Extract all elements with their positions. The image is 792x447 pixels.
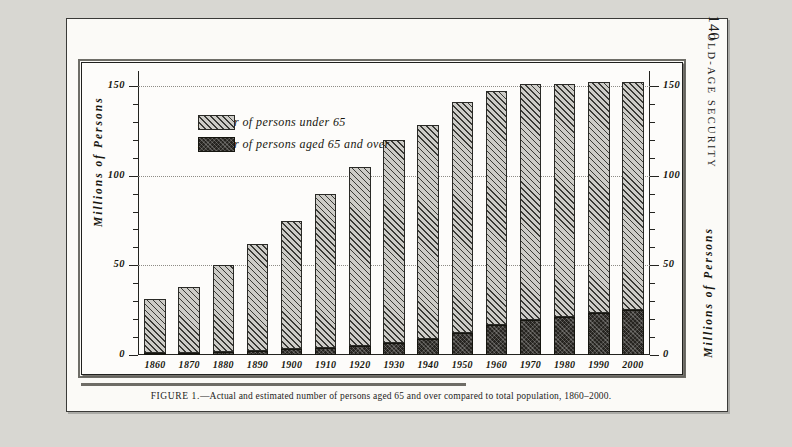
bar-segment-over-65-1890 — [247, 351, 269, 355]
bar-segment-over-65-1990 — [588, 313, 610, 355]
y-tick-l-100 — [129, 176, 138, 177]
bar-segment-under-65-1870 — [178, 287, 200, 353]
bar-segment-over-65-1950 — [452, 333, 474, 355]
bar-2000 — [622, 82, 644, 355]
caption-rule — [81, 383, 466, 386]
x-tick-label-1960: 1960 — [479, 359, 513, 370]
bar-segment-under-65-1940 — [417, 125, 439, 338]
caption-text: —Actual and estimated number of persons … — [200, 391, 611, 401]
x-tick-label-1990: 1990 — [582, 359, 616, 370]
y-tick-label-right-0: 0 — [663, 348, 669, 359]
bar-1940 — [417, 125, 439, 355]
x-tick-label-1970: 1970 — [513, 359, 547, 370]
bar-1950 — [452, 102, 474, 355]
figure-frame: 005050100100150150 Millions of Persons M… — [81, 62, 683, 375]
y-tick-r-10 — [650, 337, 655, 338]
bar-segment-under-65-1950 — [452, 102, 474, 333]
chart-plot-area: 005050100100150150 Millions of Persons M… — [138, 77, 650, 355]
x-tick-label-1920: 1920 — [343, 359, 377, 370]
y-tick-label-right-150: 150 — [663, 79, 680, 90]
legend-swatch-over-65 — [198, 137, 235, 152]
y-tick-r-60 — [650, 247, 655, 248]
y-tick-r-90 — [650, 194, 655, 195]
bar-1980 — [554, 84, 576, 355]
y-tick-r-120 — [650, 140, 655, 141]
y-tick-r-20 — [650, 319, 655, 320]
bar-segment-over-65-1910 — [315, 348, 337, 355]
bar-1920 — [349, 167, 371, 355]
y-tick-l-0 — [129, 355, 138, 356]
y-tick-label-right-100: 100 — [663, 169, 680, 180]
printed-page: 140 OLD-AGE SECURITY 005050100100150150 … — [66, 18, 728, 412]
bar-1970 — [520, 84, 542, 355]
x-tick-label-1890: 1890 — [240, 359, 274, 370]
y-axis-title-right: Millions of Persons — [702, 227, 714, 358]
y-tick-r-140 — [650, 104, 655, 105]
y-tick-label-left-0: 0 — [119, 348, 125, 359]
figure-caption: FIGURE 1.—Actual and estimated number of… — [81, 391, 681, 401]
bar-segment-under-65-1960 — [486, 91, 508, 325]
x-tick-label-1950: 1950 — [445, 359, 479, 370]
bar-segment-under-65-1890 — [247, 244, 269, 351]
bar-segment-under-65-1860 — [144, 299, 166, 353]
bar-segment-over-65-1940 — [417, 339, 439, 355]
bar-segment-under-65-1970 — [520, 84, 542, 320]
chart-legend: Number of persons under 65 Number of per… — [198, 115, 390, 159]
y-tick-r-150 — [650, 86, 659, 87]
bar-segment-under-65-1990 — [588, 82, 610, 313]
x-tick-label-1940: 1940 — [411, 359, 445, 370]
bar-1860 — [144, 299, 166, 355]
x-tick-label-1860: 1860 — [138, 359, 172, 370]
bar-segment-under-65-1920 — [349, 167, 371, 347]
bar-1990 — [588, 82, 610, 355]
bar-1870 — [178, 287, 200, 355]
bar-segment-under-65-1900 — [281, 221, 303, 350]
bar-segment-over-65-1880 — [213, 352, 235, 355]
bar-segment-over-65-1930 — [383, 343, 405, 355]
bar-segment-over-65-1870 — [178, 353, 200, 355]
running-head: OLD-AGE SECURITY — [706, 33, 717, 169]
y-tick-label-left-100: 100 — [108, 169, 125, 180]
y-tick-r-30 — [650, 301, 655, 302]
y-axis-title-left: Millions of Persons — [92, 96, 104, 227]
x-tick-label-1910: 1910 — [309, 359, 343, 370]
y-tick-label-left-50: 50 — [114, 258, 126, 269]
bar-1900 — [281, 220, 303, 355]
y-tick-r-130 — [650, 122, 655, 123]
y-tick-l-150 — [129, 86, 138, 87]
x-tick-label-1880: 1880 — [206, 359, 240, 370]
bar-segment-over-65-1860 — [144, 353, 166, 355]
y-tick-r-80 — [650, 212, 655, 213]
bar-segment-under-65-1930 — [383, 140, 405, 343]
y-tick-r-0 — [650, 355, 659, 356]
caption-label: FIGURE 1. — [151, 391, 200, 401]
x-tick-label-2000: 2000 — [616, 359, 650, 370]
y-tick-label-right-50: 50 — [663, 258, 675, 269]
legend-swatch-under-65 — [198, 115, 235, 130]
y-tick-l-50 — [129, 265, 138, 266]
y-tick-r-110 — [650, 158, 655, 159]
x-tick-label-1870: 1870 — [172, 359, 206, 370]
bar-1910 — [315, 194, 337, 355]
y-tick-r-50 — [650, 265, 659, 266]
legend-item-over-65: Number of persons aged 65 and over — [198, 137, 390, 152]
bar-1930 — [383, 140, 405, 355]
bar-segment-over-65-2000 — [622, 310, 644, 355]
bar-segment-over-65-1980 — [554, 317, 576, 355]
bar-segment-under-65-1910 — [315, 194, 337, 348]
y-tick-r-100 — [650, 176, 659, 177]
x-tick-label-1980: 1980 — [548, 359, 582, 370]
bar-segment-under-65-2000 — [622, 82, 644, 310]
y-tick-r-70 — [650, 229, 655, 230]
bar-segment-over-65-1900 — [281, 349, 303, 355]
x-tick-label-1930: 1930 — [377, 359, 411, 370]
legend-item-under-65: Number of persons under 65 — [198, 115, 390, 130]
bar-segment-under-65-1980 — [554, 84, 576, 316]
bar-1880 — [213, 265, 235, 355]
bar-segment-over-65-1970 — [520, 320, 542, 355]
bar-1960 — [486, 91, 508, 355]
y-tick-label-left-150: 150 — [108, 79, 125, 90]
x-tick-label-1900: 1900 — [275, 359, 309, 370]
bar-segment-under-65-1880 — [213, 265, 235, 352]
bar-1890 — [247, 244, 269, 355]
